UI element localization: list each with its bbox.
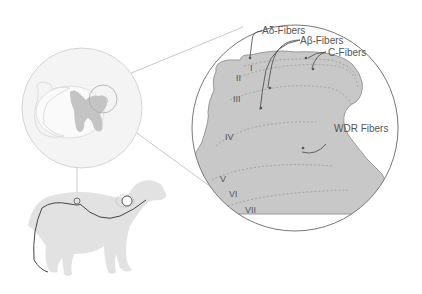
label-c-fibers: C-Fibers	[328, 47, 366, 58]
label-wdr-fibers: WDR Fibers	[334, 123, 388, 134]
lamina-V: V	[220, 174, 226, 184]
lamina-II: II	[236, 73, 241, 83]
diagram-canvas: I II III IV V VI VII Aδ-Fibers Aβ-Fibers…	[0, 0, 422, 294]
lamina-III: III	[233, 94, 241, 104]
lamina-I: I	[250, 63, 253, 73]
lamina-VII: VII	[245, 205, 256, 215]
dog-silhouette	[28, 180, 166, 276]
label-a-beta-fibers: Aβ-Fibers	[300, 35, 344, 46]
lamina-IV: IV	[225, 132, 234, 142]
spinal-cord-cross-section	[22, 48, 142, 168]
lamina-VI: VI	[229, 189, 238, 199]
label-a-delta-fibers: Aδ-Fibers	[262, 25, 305, 36]
